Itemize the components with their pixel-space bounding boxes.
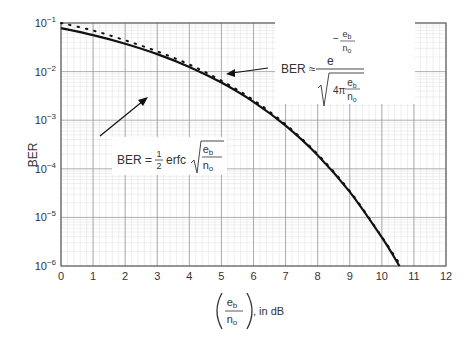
svg-text:−: − — [333, 33, 339, 44]
annotation-approx-formula: BER ≈ − eb no e 4π eb no — [226, 22, 415, 106]
x-tick-labels: 0123456789101112 — [58, 270, 452, 282]
arrow-head-icon — [226, 69, 235, 77]
x-axis-label: eb no , in dB — [217, 293, 284, 329]
svg-text:BER ≈: BER ≈ — [281, 62, 316, 76]
arrow-head-icon — [138, 97, 148, 106]
x-tick-label: 2 — [122, 270, 128, 282]
x-tick-label: 10 — [376, 270, 388, 282]
y-tick-label: 10−6 — [35, 258, 57, 272]
x-tick-label: 4 — [186, 270, 192, 282]
x-tick-label: 8 — [315, 270, 321, 282]
x-tick-label: 9 — [347, 270, 353, 282]
svg-text:BER =: BER = — [117, 153, 152, 167]
y-tick-label: 10−3 — [35, 112, 57, 126]
x-tick-label: 11 — [408, 270, 419, 282]
svg-text:, in dB: , in dB — [253, 305, 284, 317]
x-tick-label: 12 — [440, 270, 452, 282]
y-tick-label: 10−1 — [35, 15, 57, 29]
x-tick-label: 3 — [154, 270, 160, 282]
y-tick-label: 10−2 — [35, 64, 57, 78]
svg-text:no: no — [227, 313, 238, 327]
x-tick-label: 0 — [58, 270, 64, 282]
left-paren — [217, 293, 222, 329]
right-paren — [247, 293, 252, 329]
x-tick-label: 5 — [218, 270, 224, 282]
y-axis-label: BER — [26, 142, 40, 167]
svg-text:erfc: erfc — [166, 153, 186, 167]
svg-text:2: 2 — [156, 161, 161, 171]
annotation-arrow-approx — [232, 68, 268, 73]
ber-chart: 0123456789101112 10−110−210−310−410−510−… — [0, 0, 472, 347]
svg-text:4π: 4π — [333, 85, 346, 96]
y-tick-label: 10−5 — [35, 209, 57, 223]
x-tick-label: 1 — [90, 270, 96, 282]
x-tick-label: 6 — [250, 270, 256, 282]
x-tick-label: 7 — [283, 270, 289, 282]
svg-text:e: e — [327, 54, 334, 68]
svg-text:1: 1 — [156, 149, 161, 159]
svg-text:eb: eb — [227, 296, 238, 310]
